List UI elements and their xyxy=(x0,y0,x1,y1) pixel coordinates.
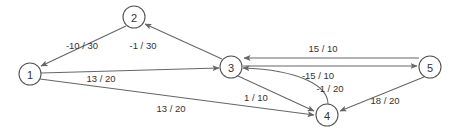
node-1[interactable]: 1 xyxy=(19,63,41,85)
node-2[interactable]: 2 xyxy=(123,6,145,28)
edge-label-3-to-5: -15 / 10 xyxy=(302,70,334,81)
edge-label-1-to-4: 13 / 20 xyxy=(156,103,185,114)
node-2-label: 2 xyxy=(131,12,137,24)
graph-svg-canvas: -10 / 30 -1 / 30 13 / 20 13 / 20 15 / 10… xyxy=(0,0,464,140)
graph-diagram: -10 / 30 -1 / 30 13 / 20 13 / 20 15 / 10… xyxy=(0,0,464,140)
edge-3-to-2 xyxy=(145,24,222,59)
edge-label-4-to-3: -1 / 20 xyxy=(317,83,344,94)
edge-label-1-to-3: 13 / 20 xyxy=(86,73,115,84)
node-3[interactable]: 3 xyxy=(220,56,242,78)
edge-label-5-to-3: 15 / 10 xyxy=(308,43,337,54)
node-3-label: 3 xyxy=(228,62,234,74)
node-4-label: 4 xyxy=(324,110,330,122)
node-5[interactable]: 5 xyxy=(419,56,441,78)
edge-1-to-3 xyxy=(41,68,219,73)
edge-label-5-to-4: 18 / 20 xyxy=(370,95,399,106)
node-1-label: 1 xyxy=(27,69,33,81)
node-5-label: 5 xyxy=(427,62,433,74)
node-4[interactable]: 4 xyxy=(316,104,338,126)
edge-label-2-to-1: -10 / 30 xyxy=(66,40,98,51)
edge-label-3-to-2: -1 / 30 xyxy=(130,40,157,51)
edge-label-3-to-4: 1 / 10 xyxy=(244,92,268,103)
